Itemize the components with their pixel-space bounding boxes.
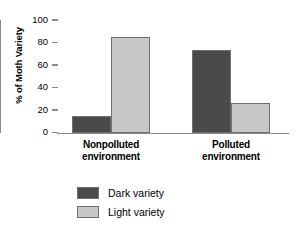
chart-legend: Dark varietyLight variety xyxy=(77,185,165,223)
legend-label: Dark variety xyxy=(108,188,164,199)
bar-chart: % of Moth Variety 100806040200 Nonpollut… xyxy=(0,0,301,237)
x-axis-label-line: environment xyxy=(171,151,291,163)
legend-label: Light variety xyxy=(108,207,165,218)
x-axis-label-line: Nonpolluted xyxy=(51,139,171,151)
x-axis-label-line: Polluted xyxy=(171,139,291,151)
x-axis-label-1: Nonpollutedenvironment xyxy=(51,139,171,162)
bar-light-variety-nonpolluted-environment xyxy=(111,37,150,133)
bar-dark-variety-nonpolluted-environment xyxy=(72,116,111,133)
bar-light-variety-polluted-environment xyxy=(231,103,270,132)
legend-item-light-variety: Light variety xyxy=(77,204,165,220)
legend-swatch-icon xyxy=(77,206,99,218)
x-axis-label-2: Pollutedenvironment xyxy=(171,139,291,162)
legend-item-dark-variety: Dark variety xyxy=(77,185,165,201)
x-axis-label-line: environment xyxy=(51,151,171,163)
bar-dark-variety-polluted-environment xyxy=(192,50,231,132)
legend-swatch-icon xyxy=(77,187,99,199)
